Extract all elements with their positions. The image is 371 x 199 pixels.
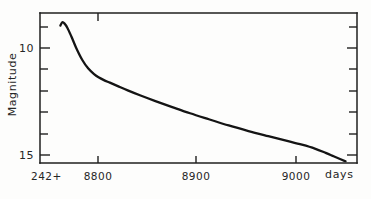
x-axis-unit-label: days	[325, 168, 354, 181]
x-axis-ticks	[98, 13, 296, 163]
y-axis-ticks-right	[347, 27, 357, 155]
x-axis-origin-label: 242+	[31, 170, 62, 182]
y-axis-ticks-left	[40, 27, 50, 155]
axis-frame	[40, 13, 357, 163]
y-axis-title: Magnitude	[6, 49, 19, 121]
x-tick-label-8900: 8900	[166, 170, 226, 182]
light-curve-figure: Magnitude 10 15 8800 8900 9000 242+ days	[0, 0, 371, 199]
x-tick-label-8800: 8800	[68, 170, 128, 182]
y-tick-label-15: 15	[12, 149, 34, 162]
y-tick-label-10: 10	[12, 42, 34, 55]
x-tick-label-9000: 9000	[266, 170, 326, 182]
light-curve-line	[60, 22, 345, 161]
